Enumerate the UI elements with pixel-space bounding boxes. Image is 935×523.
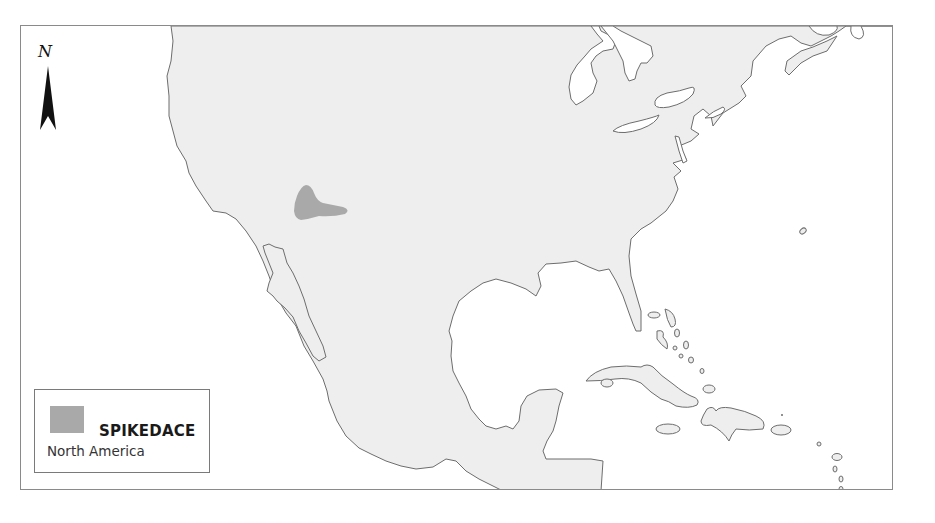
- gulf-bay-northeast: [851, 26, 864, 39]
- antilles-5: [839, 487, 843, 491]
- turks-caicos: [700, 369, 704, 374]
- puerto-rico: [771, 425, 791, 435]
- bahamas-7: [679, 354, 683, 358]
- antilles-3: [833, 466, 837, 472]
- inagua: [703, 385, 715, 393]
- bahamas-2: [665, 309, 676, 327]
- bahamas-6: [673, 346, 677, 350]
- hispaniola: [701, 407, 764, 441]
- isle-of-youth: [601, 379, 613, 387]
- legend-swatch: [50, 406, 84, 433]
- small-island-dot: [781, 414, 783, 416]
- antilles-1: [817, 442, 821, 446]
- bahamas-4: [675, 329, 680, 337]
- bermuda: [799, 227, 808, 235]
- legend-region-subtitle: North America: [47, 443, 145, 459]
- north-arrow-icon: [36, 42, 60, 134]
- legend-species-title: SPIKEDACE: [99, 422, 195, 440]
- legend: SPIKEDACE North America: [34, 389, 210, 473]
- antilles-4: [839, 476, 843, 482]
- jamaica: [656, 424, 680, 434]
- bahamas-3: [657, 331, 668, 349]
- antilles-2: [832, 454, 842, 461]
- bahamas-5: [684, 341, 689, 349]
- bahamas-8: [689, 357, 694, 363]
- bahamas-1: [648, 312, 660, 318]
